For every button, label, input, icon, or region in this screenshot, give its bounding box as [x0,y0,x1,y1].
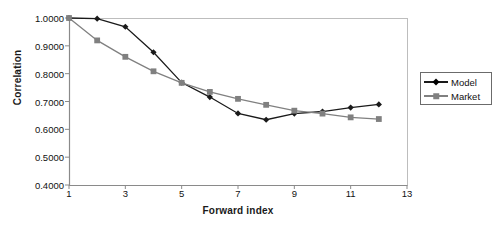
legend-entry-market: Market [421,89,491,103]
plot-area [0,0,500,229]
legend-marker-model [424,76,448,88]
legend-label-model: Model [451,77,477,88]
legend-entry-model: Model [421,75,491,89]
chart-container: Correlation Forward index 1.0000 0.9000 … [0,0,500,229]
chart-legend: Model Market [420,72,492,105]
legend-label-market: Market [451,91,480,102]
legend-marker-market [424,90,448,102]
